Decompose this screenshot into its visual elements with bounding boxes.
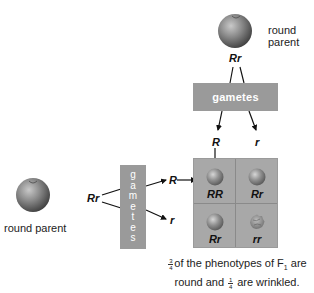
top-parent-label-line1: round [268,24,299,36]
diagram-graphics [0,0,314,293]
punnett-square: RR Rr Rr rr [193,158,278,248]
left-gamete-R: R [169,174,177,186]
top-parent-pea-icon [218,14,252,48]
punnett-cell-Rr-bottom: Rr [194,204,236,248]
left-parent-label: round parent [4,222,66,234]
top-parent-line-right [240,67,244,83]
arrow-to-r-left [146,210,166,219]
gametes-box-vertical: g a m e t e s [120,165,146,249]
wrinkled-pea-icon [248,213,266,231]
cell-genotype: Rr [209,233,221,245]
left-parent-pea-icon [16,178,50,212]
top-parent-label-line2: parent [268,36,299,48]
left-parent-line-upper [102,189,121,195]
arrow-to-r-top [249,111,256,130]
top-parent-label: round parent [268,24,299,48]
left-gamete-r: r [170,214,174,226]
fraction-three-quarters: 34 [168,258,173,271]
punnett-cell-RR: RR [194,159,236,203]
top-gamete-R: R [212,136,220,148]
gametes-letter: s [131,233,136,244]
fraction-one-quarter: 14 [228,277,233,290]
gametes-box-horizontal: gametes [193,83,278,111]
arrow-to-R-left [146,180,166,186]
top-parent-genotype: Rr [229,52,241,64]
cell-genotype: RR [207,188,223,200]
punnett-cell-Rr-top: Rr [236,159,278,203]
caption-line1: 34of the phenotypes of F1 are [160,256,314,275]
top-parent-line-left [230,67,233,83]
round-pea-icon [248,168,266,186]
cell-genotype: rr [253,233,262,245]
arrow-to-R-top [218,111,222,130]
top-gamete-r: r [255,136,259,148]
left-parent-line-lower [102,202,121,208]
caption: 34of the phenotypes of F1 are round and … [160,256,314,290]
cell-genotype: Rr [251,188,263,200]
round-pea-icon [206,168,224,186]
left-parent-genotype: Rr [87,192,99,204]
punnett-cell-rr: rr [236,204,278,248]
round-pea-icon [206,213,224,231]
caption-line2: round and 14 are wrinkled. [160,275,314,290]
